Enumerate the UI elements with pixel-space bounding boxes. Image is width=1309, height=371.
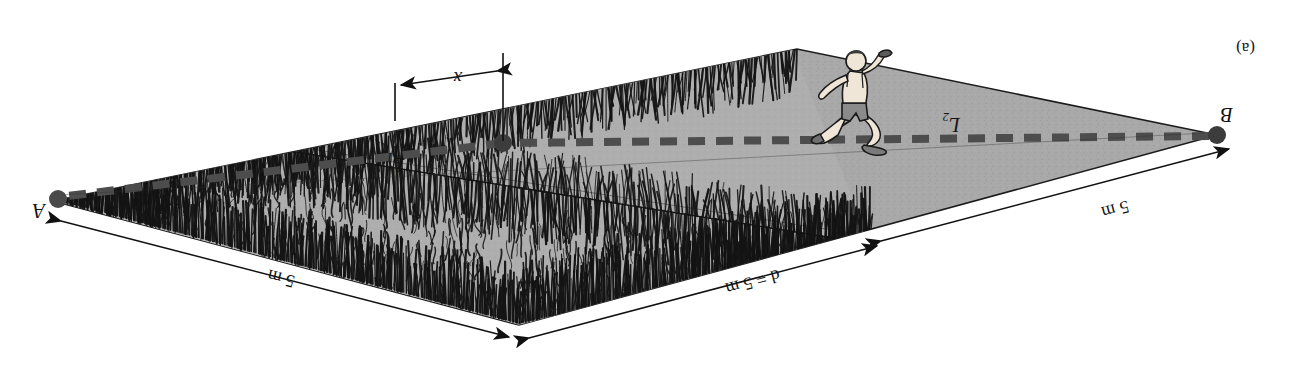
label-path-l1: L1 <box>387 151 404 175</box>
point-a-dot <box>49 190 67 208</box>
label-point-a: A <box>33 201 45 221</box>
figure-canvas: (a) <box>0 0 1309 371</box>
label-point-b: B <box>1221 105 1233 125</box>
field-illustration <box>0 0 1309 371</box>
label-path-l2: L2 <box>943 111 960 135</box>
diagram-stage: B A L1 L2 x 5 m d = 5 m 5 m <box>0 0 1309 371</box>
point-b-dot <box>1208 126 1226 144</box>
label-dimension-x: x <box>454 69 462 88</box>
